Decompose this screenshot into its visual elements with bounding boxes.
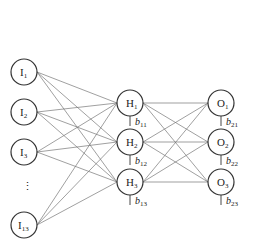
edge-I13-H1 bbox=[37, 103, 117, 225]
edge-I13-H2 bbox=[37, 142, 117, 225]
edge-I3-H2 bbox=[37, 142, 117, 152]
node-o3: O3b23 bbox=[208, 169, 239, 208]
ellipsis-vertical: ⋮ bbox=[22, 180, 33, 192]
bias-label: b23 bbox=[226, 195, 239, 208]
edge-I1-H2 bbox=[37, 72, 117, 142]
edge-I3-H3 bbox=[37, 152, 117, 182]
bias-label: b21 bbox=[226, 116, 239, 129]
neural-network-diagram: I1I2I3I13H1b11H2b12H3b13O1b21O2b22O3b23⋮ bbox=[0, 0, 253, 250]
bias-label: b22 bbox=[226, 155, 239, 168]
node-i13: I13 bbox=[11, 212, 37, 238]
bias-label: b13 bbox=[135, 195, 148, 208]
node-i3: I3 bbox=[11, 139, 37, 165]
node-h1: H1b11 bbox=[117, 90, 147, 129]
edge-I13-H3 bbox=[37, 182, 117, 225]
node-i2: I2 bbox=[11, 99, 37, 125]
node-o2: O2b22 bbox=[208, 129, 239, 168]
node-i1: I1 bbox=[11, 59, 37, 85]
edge-I2-H2 bbox=[37, 112, 117, 142]
node-o1: O1b21 bbox=[208, 90, 239, 129]
bias-label: b12 bbox=[135, 155, 148, 168]
node-h3: H3b13 bbox=[117, 169, 148, 208]
bias-label: b11 bbox=[135, 116, 147, 129]
node-h2: H2b12 bbox=[117, 129, 148, 168]
neuron-nodes: I1I2I3I13H1b11H2b12H3b13O1b21O2b22O3b23⋮ bbox=[11, 59, 239, 238]
edge-I1-H1 bbox=[37, 72, 117, 103]
